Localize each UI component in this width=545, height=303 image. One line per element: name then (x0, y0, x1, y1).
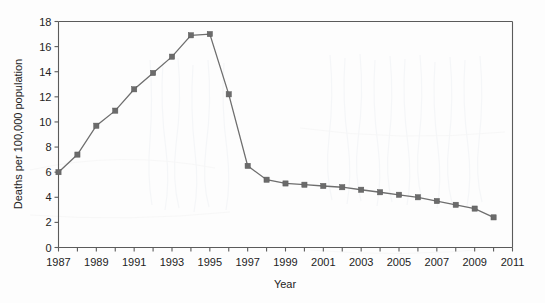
y-tick-label: 10 (39, 116, 51, 128)
x-tick-label: 2009 (462, 256, 486, 268)
figure-canvas: 024681012141618 198719891991199319951997… (0, 0, 545, 303)
data-point-marker (56, 170, 61, 175)
line-chart: 024681012141618 198719891991199319951997… (0, 0, 545, 303)
data-point-marker (321, 183, 326, 188)
y-tick-label: 6 (45, 166, 51, 178)
x-axis-tick-labels: 1987198919911993199519971999200120032005… (46, 256, 524, 268)
data-point-marker (75, 152, 80, 157)
data-point-marker (415, 195, 420, 200)
data-point-marker (396, 192, 401, 197)
data-point-marker (188, 33, 193, 38)
data-point-marker (340, 185, 345, 190)
axes-frame (59, 22, 513, 248)
data-point-marker (169, 54, 174, 59)
data-series-markers (56, 31, 496, 220)
y-tick-label: 8 (45, 141, 51, 153)
x-tick-label: 1987 (46, 256, 70, 268)
data-point-marker (491, 215, 496, 220)
x-tick-label: 1989 (84, 256, 108, 268)
x-axis-ticks (59, 248, 513, 252)
x-tick-label: 1995 (198, 256, 222, 268)
x-tick-label: 1997 (235, 256, 259, 268)
data-point-marker (150, 70, 155, 75)
y-axis-tick-labels: 024681012141618 (39, 16, 51, 254)
data-point-marker (113, 108, 118, 113)
data-point-marker (264, 177, 269, 182)
x-tick-label: 2001 (311, 256, 335, 268)
y-axis-ticks (55, 22, 59, 248)
data-point-marker (207, 31, 212, 36)
x-tick-label: 2003 (349, 256, 373, 268)
x-tick-label: 2007 (425, 256, 449, 268)
data-point-marker (472, 206, 477, 211)
x-tick-label: 1991 (122, 256, 146, 268)
data-point-marker (283, 181, 288, 186)
y-tick-label: 14 (39, 66, 51, 78)
x-tick-label: 2011 (501, 256, 525, 268)
x-tick-label: 1993 (160, 256, 184, 268)
y-axis-title: Deaths per 100,000 population (12, 59, 24, 209)
x-tick-label: 2005 (387, 256, 411, 268)
y-tick-label: 4 (45, 191, 51, 203)
data-point-marker (377, 190, 382, 195)
data-point-marker (245, 163, 250, 168)
data-point-marker (226, 92, 231, 97)
x-tick-label: 1999 (273, 256, 297, 268)
y-tick-label: 12 (39, 91, 51, 103)
y-tick-label: 18 (39, 16, 51, 28)
data-series-line (59, 34, 494, 217)
data-point-marker (302, 182, 307, 187)
data-point-marker (132, 87, 137, 92)
x-axis-title: Year (274, 278, 297, 290)
data-point-marker (453, 202, 458, 207)
y-tick-label: 2 (45, 216, 51, 228)
data-point-marker (359, 187, 364, 192)
data-point-marker (434, 198, 439, 203)
data-point-marker (94, 123, 99, 128)
y-tick-label: 16 (39, 41, 51, 53)
y-tick-label: 0 (45, 242, 51, 254)
